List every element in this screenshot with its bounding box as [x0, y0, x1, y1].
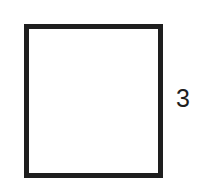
square-shape	[24, 24, 163, 178]
side-length-label: 3	[176, 84, 190, 112]
